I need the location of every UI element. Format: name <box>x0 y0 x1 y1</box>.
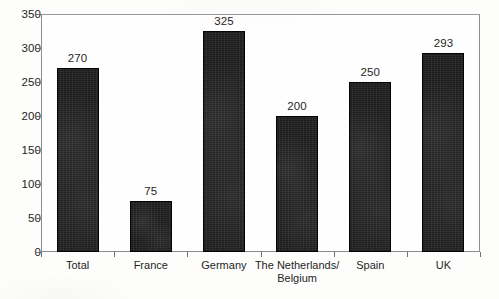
bar <box>203 31 245 252</box>
bar-value-label: 250 <box>340 66 400 78</box>
x-axis-tick-mark <box>334 252 335 257</box>
bar <box>57 68 99 252</box>
y-axis-ticks: 050100150200250300350 <box>0 0 41 1</box>
bar-value-label: 270 <box>48 52 108 64</box>
y-axis-tick: 0 <box>0 252 41 253</box>
bar <box>276 116 318 252</box>
y-axis-tick: 200 <box>0 116 41 117</box>
y-axis-tick: 250 <box>0 82 41 83</box>
x-axis-tick-mark <box>41 252 42 257</box>
x-axis-category-label-line: Belgium <box>242 272 352 285</box>
plot-area <box>41 14 480 252</box>
x-axis-category-label-line: UK <box>388 259 498 272</box>
x-axis-tick-mark <box>114 252 115 257</box>
bar-value-label: 75 <box>121 185 181 197</box>
bar-value-label: 325 <box>194 15 254 27</box>
bar <box>422 53 464 252</box>
bar-value-label: 200 <box>267 100 327 112</box>
bar <box>130 201 172 252</box>
x-axis-tick-mark <box>480 252 481 257</box>
x-axis-tick-mark <box>261 252 262 257</box>
x-axis-tick-mark <box>407 252 408 257</box>
y-axis-tick: 100 <box>0 184 41 185</box>
x-axis-category-label: UK <box>388 259 498 272</box>
y-axis-tick: 50 <box>0 218 41 219</box>
bar-value-label: 293 <box>413 37 473 49</box>
bar-chart: 050100150200250300350 270Total75France32… <box>0 0 499 299</box>
bar <box>349 82 391 252</box>
y-axis-tick: 350 <box>0 14 41 15</box>
y-axis-tick: 150 <box>0 150 41 151</box>
x-axis-tick-mark <box>187 252 188 257</box>
y-axis-tick: 300 <box>0 48 41 49</box>
